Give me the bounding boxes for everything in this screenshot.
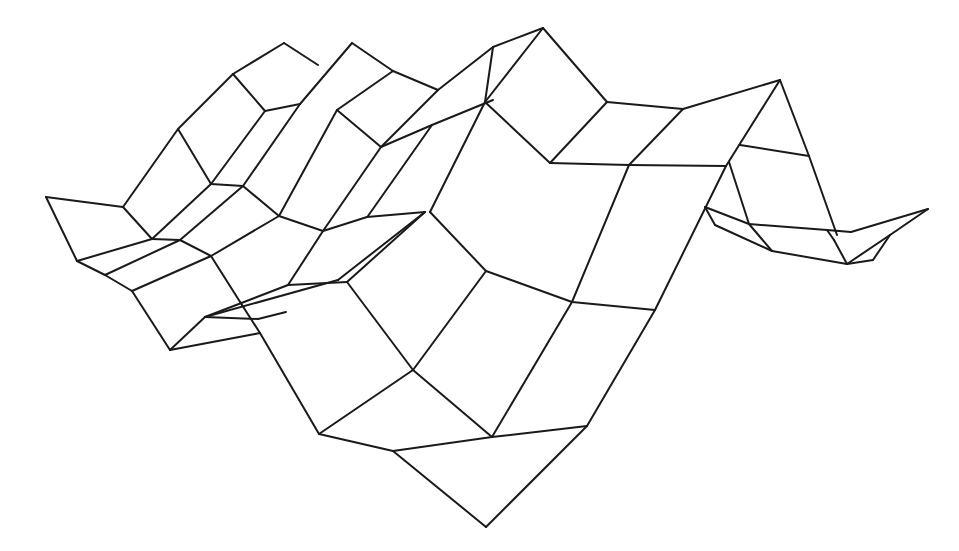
mesh-edge (629, 165, 726, 166)
background (0, 0, 959, 551)
mesh-edge (152, 239, 180, 240)
wireframe-surface (0, 0, 959, 551)
